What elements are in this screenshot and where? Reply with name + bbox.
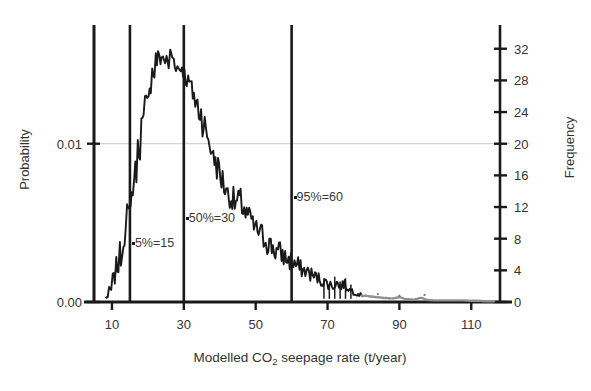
x-tick-label-1: 30 xyxy=(177,317,191,332)
x-tick-label-4: 90 xyxy=(392,317,406,332)
y-tick-label-right-3: 12 xyxy=(514,200,528,215)
x-axis-title-post: seepage rate (t/year) xyxy=(278,350,407,365)
annotation-p05: 5%=15 xyxy=(135,236,174,250)
y-tick-label-right-1: 4 xyxy=(514,263,521,278)
x-axis-title-subscript: 2 xyxy=(272,356,277,367)
y-tick-label-right-2: 8 xyxy=(514,232,521,247)
annotation-marker-p50 xyxy=(186,217,189,220)
annotation-marker-p95 xyxy=(294,196,297,199)
y-tick-label-right-8: 32 xyxy=(514,42,528,57)
y-tick-label-right-4: 16 xyxy=(514,168,528,183)
annotation-marker-p05 xyxy=(132,242,135,245)
y-tick-label-left-1: 0.01 xyxy=(57,137,82,152)
x-axis-title-pre: Modelled CO xyxy=(193,350,272,365)
y-tick-label-right-7: 28 xyxy=(514,73,528,88)
y-axis-right-title: Frequency xyxy=(562,88,577,208)
tail-outlier-0 xyxy=(377,293,379,295)
distribution-curve-tail xyxy=(362,296,494,302)
x-axis-title: Modelled CO2 seepage rate (t/year) xyxy=(95,350,505,365)
y-tick-label-left-0: 0.00 xyxy=(57,295,82,310)
chart-figure: 0.000.010481216202428321030507090110 Pro… xyxy=(0,0,591,391)
y-tick-label-right-5: 20 xyxy=(514,137,528,152)
x-tick-label-0: 10 xyxy=(105,317,119,332)
annotation-p95: 95%=60 xyxy=(297,190,343,204)
annotation-p50: 50%=30 xyxy=(189,211,235,225)
y-axis-left-title: Probability xyxy=(17,100,32,220)
tail-outlier-2 xyxy=(423,294,425,296)
y-tick-label-right-6: 24 xyxy=(514,105,528,120)
x-tick-label-5: 110 xyxy=(461,317,482,332)
tail-outlier-1 xyxy=(398,295,400,297)
x-tick-label-3: 70 xyxy=(320,317,334,332)
x-tick-label-2: 50 xyxy=(248,317,262,332)
y-tick-label-right-0: 0 xyxy=(514,295,521,310)
distribution-curve xyxy=(106,50,363,298)
